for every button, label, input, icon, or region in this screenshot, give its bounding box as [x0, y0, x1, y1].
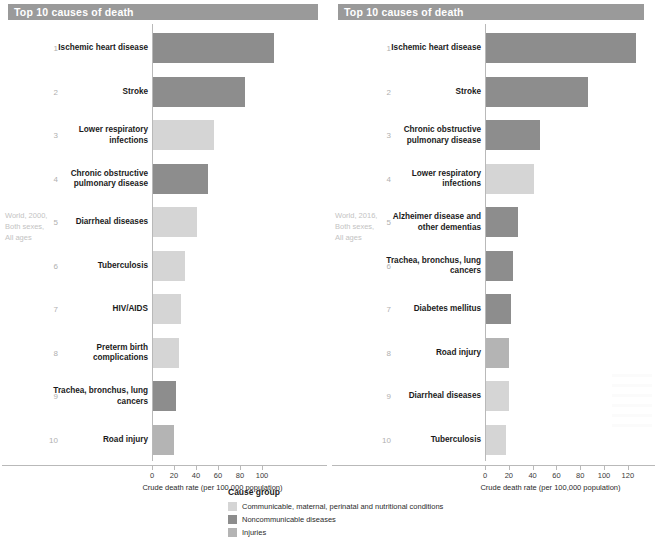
- bar[interactable]: [486, 251, 513, 281]
- chart-row: 5Diarrheal diseases: [0, 200, 327, 244]
- legend-label: Communicable, maternal, perinatal and nu…: [242, 502, 443, 511]
- row-label: Ischemic heart disease: [44, 43, 148, 54]
- chart-row: 9Trachea, bronchus, lung cancers: [0, 374, 327, 418]
- bar[interactable]: [486, 338, 509, 368]
- row-label: Preterm birth complications: [44, 342, 148, 363]
- x-axis-tick: [509, 466, 510, 470]
- bar[interactable]: [153, 425, 174, 455]
- x-axis-tick-label: 80: [576, 471, 584, 480]
- x-axis-tick: [218, 466, 219, 470]
- row-label: Chronic obstructive pulmonary disease: [377, 125, 481, 146]
- bar[interactable]: [153, 77, 245, 107]
- x-axis-tick: [174, 466, 175, 470]
- x-axis-line: [2, 465, 327, 466]
- legend-label: Injuries: [242, 528, 266, 537]
- x-axis-tick-label: 0: [150, 471, 154, 480]
- x-axis-tick: [580, 466, 581, 470]
- plot-area-2000: 1Ischemic heart disease2Stroke3Lower res…: [0, 24, 327, 456]
- bar[interactable]: [153, 251, 185, 281]
- bar[interactable]: [486, 77, 588, 107]
- panel-header-2000: Top 10 causes of death: [8, 4, 318, 20]
- bar[interactable]: [153, 294, 181, 324]
- x-axis-tick: [262, 466, 263, 470]
- bar[interactable]: [153, 338, 179, 368]
- chart-row: 7HIV/AIDS: [0, 287, 327, 331]
- chart-row: 2Stroke: [330, 70, 655, 114]
- legend-item[interactable]: Communicable, maternal, perinatal and nu…: [228, 500, 558, 513]
- row-label: Lower respiratory infections: [44, 125, 148, 146]
- x-axis-tick-label: 60: [552, 471, 560, 480]
- x-axis-tick: [240, 466, 241, 470]
- chart-row: 1Ischemic heart disease: [0, 26, 327, 70]
- chart-row: 10Tuberculosis: [330, 418, 655, 462]
- bar[interactable]: [153, 207, 197, 237]
- bar[interactable]: [153, 120, 214, 150]
- chart-row: 6Tuberculosis: [0, 244, 327, 288]
- legend-item[interactable]: Noncommunicable diseases: [228, 513, 558, 526]
- chart-row: 7Diabetes mellitus: [330, 287, 655, 331]
- legend-swatch-noncommunicable: [228, 515, 237, 524]
- scan-artifact: [612, 404, 652, 407]
- x-axis-tick: [628, 466, 629, 470]
- x-axis-tick-label: 20: [505, 471, 513, 480]
- panel-2016: Top 10 causes of death World, 2016, Both…: [330, 0, 655, 480]
- x-axis-tick: [152, 466, 153, 470]
- x-axis-tick-label: 120: [622, 471, 635, 480]
- chart-row: 4Chronic obstructive pulmonary disease: [0, 157, 327, 201]
- bar[interactable]: [486, 164, 534, 194]
- scan-artifact: [612, 414, 652, 417]
- x-axis-tick-label: 40: [192, 471, 200, 480]
- row-label: Trachea, bronchus, lung cancers: [44, 386, 148, 407]
- x-axis-line: [332, 465, 655, 466]
- plot-area-2016: 1Ischemic heart disease2Stroke3Chronic o…: [330, 24, 655, 456]
- bar[interactable]: [486, 207, 518, 237]
- row-label: Diarrheal diseases: [44, 217, 148, 228]
- row-label: Stroke: [377, 86, 481, 97]
- chart-row: 1Ischemic heart disease: [330, 26, 655, 70]
- bar[interactable]: [486, 120, 540, 150]
- x-axis-tick-label: 40: [528, 471, 536, 480]
- panel-2000: Top 10 causes of death World, 2000, Both…: [0, 0, 327, 480]
- legend: Cause group Communicable, maternal, peri…: [228, 487, 558, 537]
- panel-header-2016: Top 10 causes of death: [338, 4, 644, 20]
- row-label: Alzheimer disease and other dementias: [377, 212, 481, 233]
- bar[interactable]: [486, 381, 509, 411]
- chart-row: 3Lower respiratory infections: [0, 113, 327, 157]
- chart-row: 9Diarrheal diseases: [330, 374, 655, 418]
- legend-item[interactable]: Injuries: [228, 526, 558, 537]
- scan-artifact: [612, 374, 652, 377]
- legend-title: Cause group: [228, 487, 558, 497]
- chart-row: 6Trachea, bronchus, lung cancers: [330, 244, 655, 288]
- scan-artifact: [612, 394, 652, 397]
- x-axis-tick: [196, 466, 197, 470]
- bar[interactable]: [486, 425, 506, 455]
- bar[interactable]: [153, 381, 176, 411]
- row-label: Road injury: [44, 434, 148, 445]
- row-label: Diabetes mellitus: [377, 304, 481, 315]
- row-label: Stroke: [44, 86, 148, 97]
- row-label: Lower respiratory infections: [377, 168, 481, 189]
- row-label: Road injury: [377, 347, 481, 358]
- chart-page: Top 10 causes of death World, 2000, Both…: [0, 0, 655, 537]
- x-axis-tick-label: 100: [598, 471, 611, 480]
- bar[interactable]: [153, 164, 208, 194]
- row-label: Diarrheal diseases: [377, 391, 481, 402]
- row-label: Tuberculosis: [377, 434, 481, 445]
- x-axis-tick-label: 100: [256, 471, 269, 480]
- legend-swatch-communicable: [228, 502, 237, 511]
- bar[interactable]: [486, 33, 636, 63]
- x-axis-tick-label: 20: [170, 471, 178, 480]
- row-label: Chronic obstructive pulmonary disease: [44, 168, 148, 189]
- chart-row: 10Road injury: [0, 418, 327, 462]
- x-axis-tick: [556, 466, 557, 470]
- row-label: Trachea, bronchus, lung cancers: [377, 255, 481, 276]
- chart-row: 4Lower respiratory infections: [330, 157, 655, 201]
- scan-artifact: [612, 424, 652, 427]
- x-axis-tick: [604, 466, 605, 470]
- bar[interactable]: [486, 294, 511, 324]
- chart-row: 5Alzheimer disease and other dementias: [330, 200, 655, 244]
- legend-label: Noncommunicable diseases: [242, 515, 336, 524]
- x-axis-tick-label: 80: [236, 471, 244, 480]
- bar[interactable]: [153, 33, 274, 63]
- chart-row: 3Chronic obstructive pulmonary disease: [330, 113, 655, 157]
